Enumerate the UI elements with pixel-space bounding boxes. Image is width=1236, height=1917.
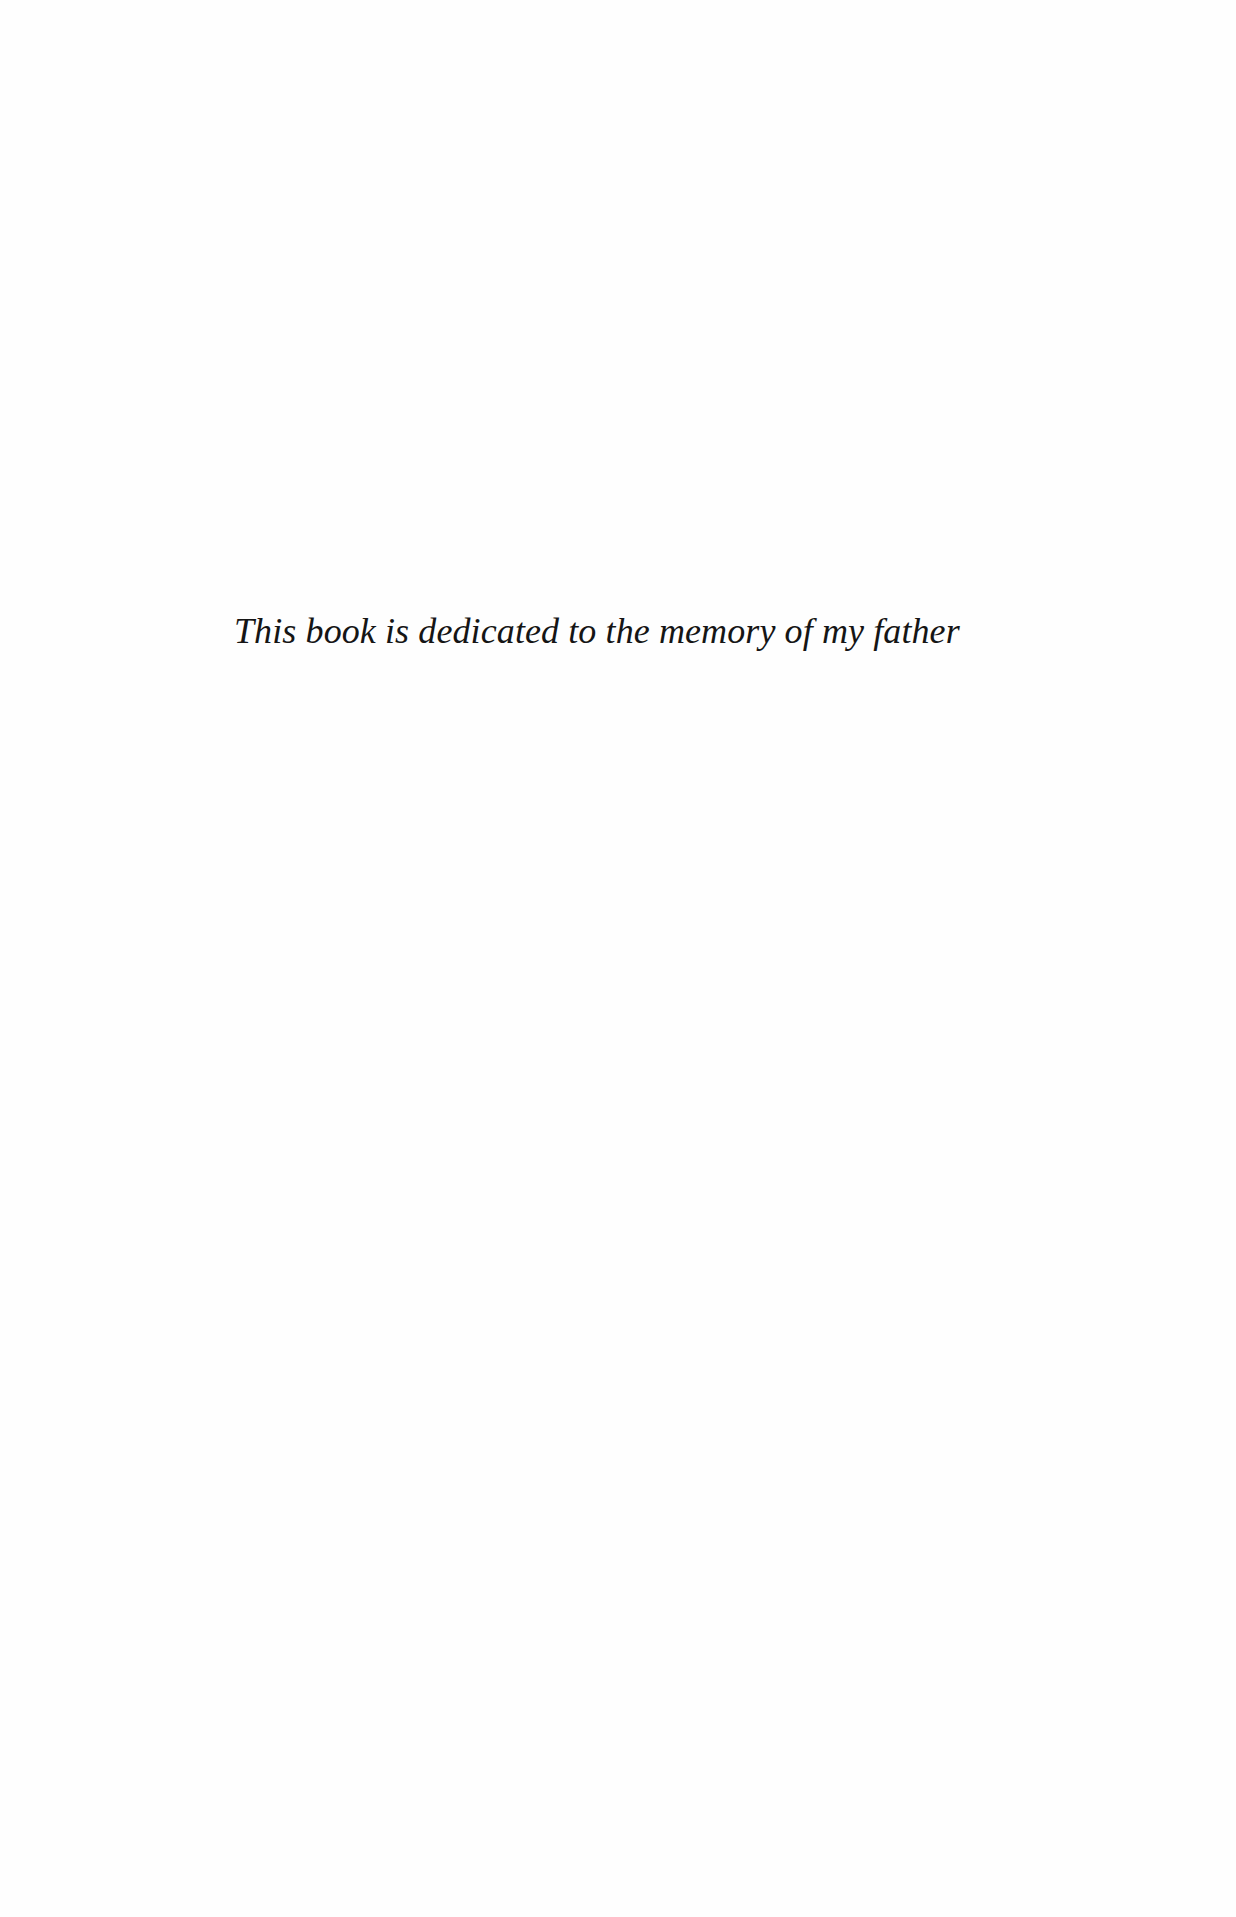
dedication-page: This book is dedicated to the memory of … <box>0 0 1236 1917</box>
dedication-text: This book is dedicated to the memory of … <box>234 606 974 656</box>
